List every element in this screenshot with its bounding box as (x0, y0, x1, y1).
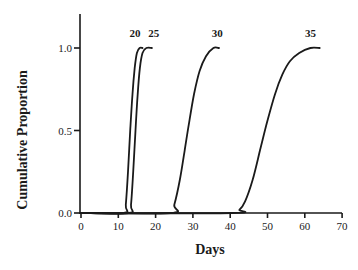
curves (81, 47, 320, 213)
x-tick-label: 30 (187, 220, 199, 232)
cumulative-proportion-chart: 010203040506070 0.00.51.0 20253035 Days … (0, 0, 358, 270)
x-tick-label: 50 (262, 220, 274, 232)
series-label-30: 30 (212, 27, 224, 39)
x-tick-label: 40 (225, 220, 237, 232)
curve-30 (81, 47, 219, 213)
x-tick-label: 0 (78, 220, 84, 232)
y-axis-title: Cumulative Proportion (15, 70, 30, 210)
series-label-20: 20 (130, 27, 142, 39)
series-label-25: 25 (148, 27, 160, 39)
series-label-35: 35 (305, 27, 317, 39)
x-ticks: 010203040506070 (78, 213, 348, 232)
x-tick-label: 60 (299, 220, 311, 232)
x-tick-label: 70 (337, 220, 349, 232)
y-tick-label: 0.5 (58, 125, 72, 137)
axes (79, 14, 342, 214)
series-labels: 20253035 (130, 27, 317, 39)
curve-20 (81, 48, 143, 214)
y-tick-label: 1.0 (58, 42, 72, 54)
curve-35 (81, 48, 320, 214)
curve-25 (81, 48, 152, 214)
x-tick-label: 10 (113, 220, 125, 232)
x-axis-title: Days (195, 242, 225, 257)
y-tick-label: 0.0 (58, 207, 72, 219)
x-tick-label: 20 (150, 220, 162, 232)
y-ticks: 0.00.51.0 (58, 42, 80, 219)
